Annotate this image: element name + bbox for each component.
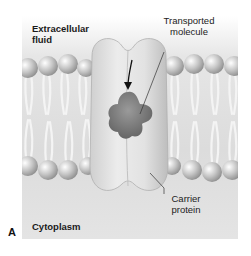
diagram-panel: Extracellular fluid Transported molecule… <box>22 16 238 239</box>
panel-letter: A <box>8 226 16 238</box>
lipid-tails-left <box>25 74 90 162</box>
label-extracellular-fluid: Extracellular fluid <box>32 24 89 45</box>
label-carrier-protein: Carrier protein <box>164 194 208 215</box>
lipid-tails-right <box>171 74 236 162</box>
label-transported-molecule: Transported molecule <box>154 16 224 37</box>
label-cytoplasm: Cytoplasm <box>32 222 81 233</box>
